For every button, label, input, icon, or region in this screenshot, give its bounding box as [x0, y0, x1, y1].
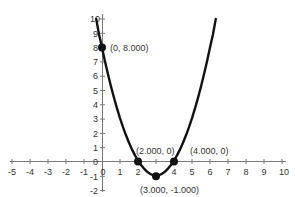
x-tick-label: -2 [62, 167, 70, 177]
x-tick-label: -5 [8, 167, 16, 177]
x-tick-label: 6 [207, 167, 212, 177]
root-left-label: (2.000, 0) [136, 146, 175, 156]
y-tick-label: 1 [93, 143, 98, 153]
x-tick-label: 1 [117, 167, 122, 177]
x-tick-label: 2 [135, 167, 140, 177]
x-tick-label: -4 [26, 167, 34, 177]
y-intercept-label: (0, 8.000) [110, 43, 149, 53]
y-tick-label: 4 [93, 100, 98, 110]
x-axis [10, 159, 286, 164]
root-right-label: (4.000, 0) [190, 146, 229, 156]
y-tick-label: 0 [93, 157, 98, 167]
x-tick-label: -1 [80, 167, 88, 177]
x-tick-label: 0 [100, 167, 105, 177]
x-tick-label: -3 [44, 167, 52, 177]
key-points [98, 44, 178, 181]
x-tick-label: 7 [225, 167, 230, 177]
y-intercept-point [98, 44, 106, 52]
root-right-point [170, 158, 178, 166]
x-tick-label: 4 [171, 167, 176, 177]
vertex-point [152, 172, 160, 180]
y-tick-label: 10 [90, 14, 100, 24]
y-tick-label: 5 [93, 86, 98, 96]
parabola-chart: -5 -4 -3 -2 -1 0 1 2 4 5 6 7 8 9 10 -2 -… [0, 0, 295, 197]
y-tick-labels: -2 -1 0 1 2 3 4 5 6 7 8 9 10 [90, 14, 100, 196]
y-tick-label: 8 [93, 43, 98, 53]
y-tick-label: 6 [93, 71, 98, 81]
x-tick-label: 5 [189, 167, 194, 177]
y-tick-label: -1 [90, 172, 98, 182]
vertex-label: (3.000, -1.000) [140, 185, 199, 195]
y-tick-label: 3 [93, 114, 98, 124]
y-tick-label: -2 [90, 186, 98, 196]
root-left-point [134, 158, 142, 166]
y-tick-label: 2 [93, 129, 98, 139]
x-tick-label: 9 [261, 167, 266, 177]
y-tick-label: 7 [93, 57, 98, 67]
x-tick-label: 8 [243, 167, 248, 177]
x-tick-label: 10 [279, 167, 289, 177]
